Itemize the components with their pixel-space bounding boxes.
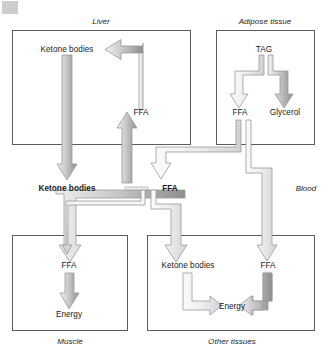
metabolism-diagram: Liver Adipose tissue Blood Muscle Other …: [0, 0, 328, 356]
flow-blood-ffa-to-liver-ffa: [117, 112, 148, 191]
node-other-energy: Energy: [219, 303, 245, 311]
blood-compartment-label: Blood: [296, 185, 317, 193]
flow-adipose-ffa-to-blood-ffa: [151, 120, 241, 179]
flow-other-ketone-to-energy: [183, 273, 222, 315]
node-adipose-tag: TAG: [256, 46, 272, 54]
node-blood-ffa: FFA: [162, 185, 178, 193]
flow-muscle-ffa-to-energy: [60, 273, 79, 309]
node-muscle-energy: Energy: [56, 311, 82, 319]
node-liver-ketone-bodies: Ketone bodies: [40, 46, 93, 54]
node-adipose-ffa: FFA: [232, 109, 247, 117]
adipose-compartment-label: Adipose tissue: [239, 18, 292, 26]
flow-liver-ketone-to-blood: [57, 55, 77, 180]
flow-adipose-ffa-to-other-ffa: [246, 120, 277, 261]
flow-adipose-tag-branches: [230, 55, 293, 108]
flow-blood-ffa-to-other-ketone: [151, 190, 187, 262]
liver-box: [13, 31, 191, 145]
flow-liver-ffa-to-ketone: [105, 40, 143, 111]
node-other-ffa: FFA: [260, 262, 275, 270]
node-adipose-glycerol: Glycerol: [270, 109, 300, 117]
muscle-compartment-label: Muscle: [57, 338, 83, 346]
node-muscle-ffa: FFA: [61, 262, 76, 270]
flow-blood-ketone-to-muscle-ffa: [56, 187, 185, 262]
other-tissues-compartment-label: Other tissues: [208, 338, 256, 346]
node-other-ketone-bodies: Ketone bodies: [161, 262, 214, 270]
node-blood-ketone-bodies: Ketone bodies: [38, 185, 95, 193]
node-liver-ffa: FFA: [133, 109, 148, 117]
liver-compartment-label: Liver: [92, 18, 110, 26]
